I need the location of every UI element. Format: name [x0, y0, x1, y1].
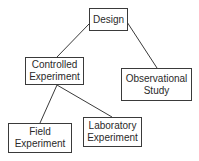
edge-controlled-laboratory	[57, 85, 112, 117]
node-field-experiment: Field Experiment	[8, 123, 72, 153]
node-design: Design	[89, 8, 128, 31]
node-controlled-experiment: Controlled Experiment	[25, 57, 84, 85]
node-observational-study: Observational Study	[121, 68, 192, 101]
edge-design-observational	[127, 22, 157, 68]
edge-design-controlled	[57, 24, 89, 57]
edge-controlled-field	[40, 85, 57, 123]
node-laboratory-experiment: Laboratory Experiment	[83, 117, 142, 147]
